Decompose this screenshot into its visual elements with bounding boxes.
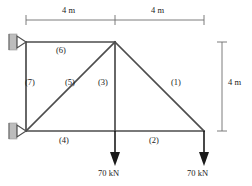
member-label-1: (1): [171, 78, 181, 87]
support-bottom-left-pin-triangle: [17, 125, 26, 137]
truss-diagram-canvas: [0, 0, 252, 186]
dimension-label-top-left: 4 m: [62, 6, 75, 15]
member-label-3: (3): [98, 78, 108, 87]
load-arrow-mid-head: [110, 152, 120, 166]
support-top-left-wall: [9, 34, 17, 50]
member-label-5: (5): [65, 78, 75, 87]
truss-diagram-figure: 4 m 4 m 4 m (6) (7) (5) (3) (1) (4) (2) …: [0, 0, 252, 186]
support-top-left-pin-triangle: [17, 36, 26, 48]
load-arrow-right: [199, 131, 209, 166]
member-label-2: (2): [149, 136, 159, 145]
support-bottom-left-wall: [9, 123, 17, 139]
load-label-mid: 70 kN: [98, 169, 119, 178]
support-top-left-group: [9, 34, 26, 50]
member-label-6: (6): [56, 46, 66, 55]
member-1-right-diagonal: [115, 42, 204, 131]
load-arrow-mid: [110, 131, 120, 166]
support-bottom-left-group: [9, 123, 26, 139]
dimension-label-right-height: 4 m: [228, 78, 241, 87]
load-arrow-right-head: [199, 152, 209, 166]
dimension-label-top-right: 4 m: [151, 6, 164, 15]
member-label-4: (4): [59, 136, 69, 145]
load-label-right: 70 kN: [187, 169, 208, 178]
top-dimension-line-group: [26, 15, 204, 25]
right-dimension-line-group: [217, 42, 227, 131]
member-label-7: (7): [25, 78, 35, 87]
load-arrows-group: [110, 131, 209, 166]
